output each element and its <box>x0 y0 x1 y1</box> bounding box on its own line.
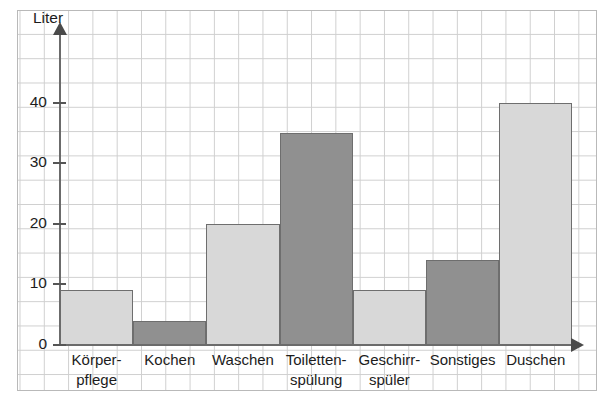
plot-area: Liter 010203040 Körper- pflegeKochenWasc… <box>0 0 615 402</box>
y-axis-tick <box>53 102 66 104</box>
y-axis-tick <box>53 162 66 164</box>
y-axis-title: Liter <box>33 9 63 27</box>
bar <box>353 290 426 345</box>
x-axis-line <box>59 344 573 346</box>
y-axis-tick-label: 10 <box>30 274 47 292</box>
bar <box>60 290 133 345</box>
category-label: Geschirr- spüler <box>353 350 426 390</box>
category-label: Waschen <box>206 350 279 370</box>
bar-chart: Liter 010203040 Körper- pflegeKochenWasc… <box>0 0 615 402</box>
y-axis-tick <box>53 283 66 285</box>
bar <box>280 133 353 345</box>
bar <box>499 103 572 345</box>
y-axis-tick-label: 20 <box>30 214 47 232</box>
y-axis-tick <box>53 223 66 225</box>
category-label: Körper- pflege <box>60 350 133 390</box>
category-label: Toiletten- spülung <box>280 350 353 390</box>
bar <box>426 260 499 345</box>
x-axis-arrow-icon <box>571 338 584 352</box>
y-axis-line <box>59 33 61 345</box>
y-axis-tick-label: 40 <box>30 93 47 111</box>
category-label: Sonstiges <box>426 350 499 370</box>
category-label: Kochen <box>133 350 206 370</box>
y-axis-tick <box>53 344 66 346</box>
bar <box>133 321 206 345</box>
y-axis-tick-label: 0 <box>38 335 47 353</box>
category-label: Duschen <box>499 350 572 370</box>
bar <box>206 224 279 345</box>
bars-layer <box>0 0 615 345</box>
y-axis-tick-label: 30 <box>30 153 47 171</box>
